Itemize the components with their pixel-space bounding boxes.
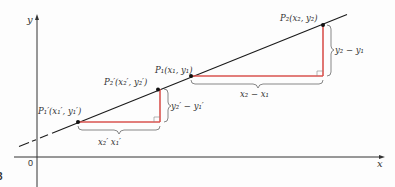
label-small-rise: y₂′ − y₁′: [170, 101, 204, 111]
secant-line: [19, 15, 347, 147]
label-small-run: x₂′ x₁′: [98, 137, 121, 147]
large-run-brace: [191, 80, 323, 88]
y-axis-arrow-icon: [35, 14, 39, 20]
label-p1-prime: P₁′(x₁′, y₁′): [37, 106, 81, 116]
large-rise-brace: [327, 25, 334, 76]
slope-diagram: y x 0 3: [0, 0, 395, 187]
figure-number: 3: [0, 171, 3, 182]
label-p1: P₁(x₁, y₁): [154, 65, 193, 75]
point-p2-prime: [156, 88, 160, 92]
line-solid: [52, 15, 347, 134]
diagram-svg: y x 0 3: [0, 0, 395, 187]
label-large-run: x₂ − x₁: [240, 89, 269, 99]
line-dash-3: [40, 135, 48, 138]
label-large-rise: y₂ − y₁: [334, 45, 364, 55]
small-run-brace: [78, 126, 160, 134]
point-p2: [321, 23, 325, 27]
small-triangle: [78, 89, 160, 122]
label-p2: P₂(x₂, y₂): [279, 13, 318, 23]
y-axis-label: y: [26, 14, 33, 25]
line-dash-1: [19, 143, 29, 147]
x-axis-label: x: [377, 158, 383, 169]
origin-label: 0: [28, 158, 33, 168]
point-p1-prime: [76, 120, 80, 124]
line-dash-2: [32, 140, 36, 142]
label-p2-prime: P₂′(x₂′, y₂′): [103, 77, 147, 87]
small-rise-brace: [164, 89, 171, 122]
